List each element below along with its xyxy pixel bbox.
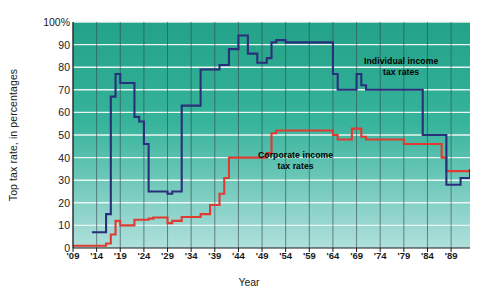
y-axis-tick-label: 40 <box>24 152 70 164</box>
x-axis-tick-label: '34 <box>185 250 198 261</box>
x-axis-tick-label: '24 <box>137 250 150 261</box>
series-annotation-corporate-line1: Corporate income <box>258 150 333 161</box>
y-axis-tick-label: 90 <box>24 39 70 51</box>
x-axis-tick-label: '44 <box>232 250 245 261</box>
series-annotation-corporate: Corporate income tax rates <box>258 150 333 171</box>
x-axis-tick-label: '29 <box>161 250 174 261</box>
y-axis-tick-label: 0 <box>24 242 70 254</box>
y-axis-tick-label: 60 <box>24 106 70 118</box>
y-axis-label: Top tax rate, in percentages <box>7 69 19 201</box>
x-axis-label: Year <box>0 276 498 288</box>
y-axis-tick-label: 100% <box>24 16 70 28</box>
y-axis-tick-label: 10 <box>24 219 70 231</box>
x-axis-tick-label: '54 <box>279 250 292 261</box>
x-axis-tick-label: '09 <box>67 250 80 261</box>
y-axis-tick-label: 70 <box>24 84 70 96</box>
x-axis-tick-label: '74 <box>374 250 387 261</box>
x-axis-tick-label: '89 <box>445 250 458 261</box>
x-axis-tick-label: '39 <box>208 250 221 261</box>
y-axis-tick-label: 30 <box>24 174 70 186</box>
x-axis-tick-label: '14 <box>90 250 103 261</box>
x-axis-tick-label: '69 <box>350 250 363 261</box>
series-annotation-individual: Individual income tax rates <box>364 56 438 77</box>
x-axis-tick-label: '19 <box>114 250 127 261</box>
series-annotation-individual-line1: Individual income <box>364 56 438 67</box>
y-axis-tick-labels: 0102030405060708090100% <box>24 0 70 299</box>
series-annotation-corporate-line2: tax rates <box>258 161 333 172</box>
x-axis-tick-label: '84 <box>421 250 434 261</box>
y-axis-tick-label: 20 <box>24 197 70 209</box>
y-axis-tick-label: 80 <box>24 61 70 73</box>
x-axis-tick-label: '79 <box>397 250 410 261</box>
y-axis-tick-label: 50 <box>24 129 70 141</box>
tax-rate-chart-figure: Top tax rate, in percentages 01020304050… <box>0 0 498 299</box>
x-axis-tick-label: '59 <box>303 250 316 261</box>
series-annotation-individual-line2: tax rates <box>364 67 438 78</box>
y-axis-label-wrapper: Top tax rate, in percentages <box>2 0 24 270</box>
x-axis-tick-label: '49 <box>256 250 269 261</box>
x-axis-tick-label: '64 <box>327 250 340 261</box>
